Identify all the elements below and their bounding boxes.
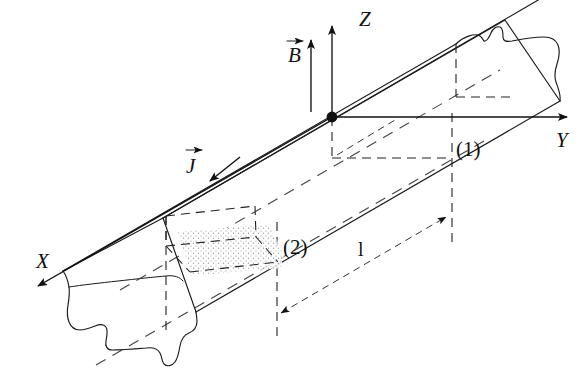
- origin-construction-lines: [332, 117, 455, 158]
- physics-figure: Z Y X B J (1) (2) l: [0, 0, 587, 386]
- vector-label-b: B: [288, 43, 301, 67]
- dotted-cross-section-slab: [166, 206, 285, 276]
- hidden-edges: [96, 44, 560, 365]
- diagram-canvas: Z Y X B J (1) (2) l: [0, 0, 587, 386]
- section-label-1: (1): [456, 137, 481, 161]
- axis-label-x: X: [35, 249, 50, 273]
- length-dimension-arrow: [281, 217, 446, 313]
- origin-dot: [327, 112, 338, 123]
- section-label-2: (2): [283, 235, 308, 259]
- bar-right-end: [505, 20, 560, 101]
- axis-label-z: Z: [359, 7, 371, 31]
- x-axis: [38, 117, 332, 286]
- axis-label-y: Y: [556, 128, 570, 152]
- length-label: l: [358, 238, 364, 260]
- vertical-drop-lines: [166, 113, 452, 340]
- torn-edge-left: [63, 271, 197, 366]
- vector-label-j: J: [186, 154, 197, 178]
- torn-edge-right: [456, 27, 560, 101]
